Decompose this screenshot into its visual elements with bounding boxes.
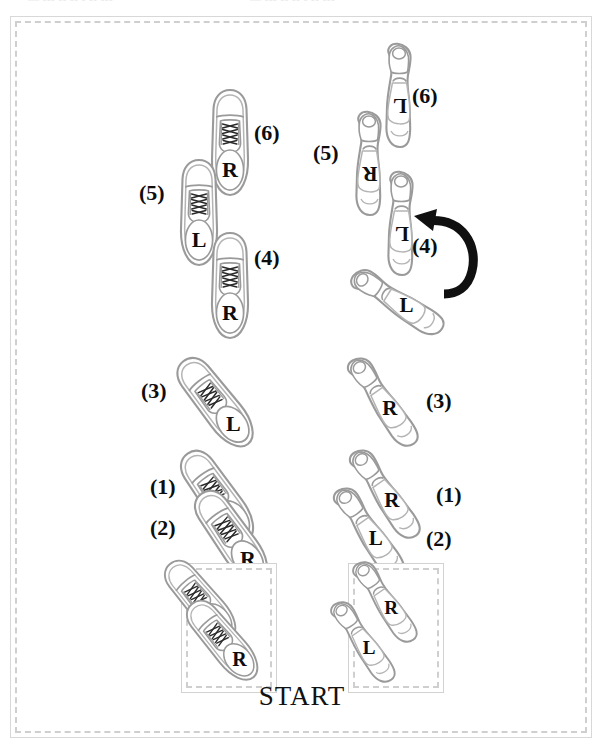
right-shoe-1-foot: R	[384, 488, 400, 512]
right-shoe-5-foot: R	[362, 162, 378, 186]
right-shoe-step-3[interactable]: R	[333, 342, 435, 460]
right-shoe-3-foot: R	[382, 396, 398, 420]
left-start-box: L R	[181, 563, 277, 693]
left-shoe-5-foot: L	[192, 227, 207, 252]
left-shoe-step-3[interactable]: L	[163, 345, 268, 462]
left-shoe-6-foot: R	[222, 157, 239, 182]
right-step-number-3: (3)	[426, 390, 452, 412]
diagram-stage: R (6) L (5) R (4) L (3) L	[11, 17, 593, 739]
left-step-number-5: (5)	[139, 182, 165, 204]
right-start-shoe-L-foot: L	[363, 637, 376, 658]
left-shoe-4-foot: R	[222, 300, 239, 325]
turn-arrow	[406, 199, 486, 304]
right-step-number-2: (2)	[426, 528, 452, 550]
scan-artifact-text-2: — --- -- -- - -- ---	[250, 0, 335, 5]
right-shoe-2-foot: L	[369, 526, 383, 550]
left-shoe-3-foot: L	[226, 411, 241, 436]
start-label: START	[11, 681, 593, 712]
right-shoe-6-foot: L	[393, 94, 407, 118]
right-start-box: R L	[348, 563, 444, 693]
right-start-shoe-R-foot: R	[384, 597, 398, 618]
left-step-number-3: (3)	[141, 380, 167, 402]
right-step-number-1: (1)	[436, 484, 462, 506]
left-start-shoe-R-foot: R	[232, 648, 247, 670]
scan-artifact-text: — --- -- -- - -- ---	[28, 0, 113, 5]
left-step-number-2: (2)	[150, 517, 176, 539]
left-step-number-6: (6)	[254, 122, 280, 144]
left-shoe-step-4[interactable]: R	[207, 230, 253, 342]
left-step-number-4: (4)	[254, 247, 280, 269]
diagram-frame: R (6) L (5) R (4) L (3) L	[10, 16, 592, 738]
right-step-number-6: (6)	[412, 85, 438, 107]
scan-artifact: — --- -- -- - -- --- — --- -- -- - -- --…	[0, 0, 602, 12]
right-step-number-5: (5)	[313, 142, 339, 164]
left-step-number-1: (1)	[150, 476, 176, 498]
